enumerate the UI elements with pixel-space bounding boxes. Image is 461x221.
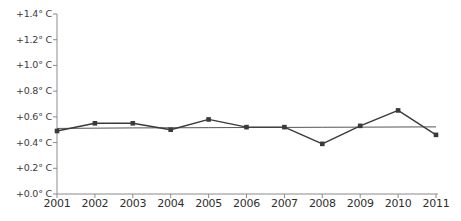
data-point-marker xyxy=(320,142,325,147)
data-point-marker xyxy=(168,127,173,132)
x-tick-label: 2003 xyxy=(119,198,146,210)
x-tick-label: 2008 xyxy=(309,198,336,210)
data-point-marker xyxy=(55,129,60,134)
data-point-marker xyxy=(282,125,287,130)
data-point-marker xyxy=(244,125,249,130)
data-point-marker xyxy=(434,133,439,138)
data-point-marker xyxy=(358,124,363,129)
x-tick-label: 2011 xyxy=(423,198,450,210)
plot-area xyxy=(0,0,461,221)
x-tick-label: 2010 xyxy=(385,198,412,210)
y-axis-ticks xyxy=(53,14,57,194)
x-tick-label: 2006 xyxy=(233,198,260,210)
x-tick-label: 2002 xyxy=(81,198,108,210)
x-tick-label: 2007 xyxy=(271,198,298,210)
x-tick-label: 2001 xyxy=(44,198,71,210)
data-point-marker xyxy=(206,117,211,122)
x-tick-label: 2004 xyxy=(157,198,184,210)
data-point-marker xyxy=(93,121,98,126)
data-point-marker xyxy=(396,108,401,113)
x-tick-label: 2005 xyxy=(195,198,222,210)
data-point-marker xyxy=(131,121,136,126)
temperature-anomaly-line-chart: +0.0° C+0.2° C+0.4° C+0.6° C+0.8° C+1.0°… xyxy=(0,0,461,221)
x-tick-label: 2009 xyxy=(347,198,374,210)
